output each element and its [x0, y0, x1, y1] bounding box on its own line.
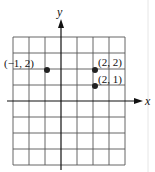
point-neg1-2: [44, 67, 50, 73]
coordinate-plane: y x (−1, 2) (2, 2) (2, 1): [0, 0, 155, 172]
point-label-neg1-2: (−1, 2): [4, 57, 34, 70]
x-axis-arrow-icon: [134, 98, 143, 104]
point-label-2-1: (2, 1): [98, 73, 122, 86]
x-axis-label: x: [144, 94, 151, 108]
y-axis-arrow-icon: [58, 19, 64, 28]
y-axis-label: y: [56, 5, 63, 19]
point-label-2-2: (2, 2): [98, 56, 122, 69]
